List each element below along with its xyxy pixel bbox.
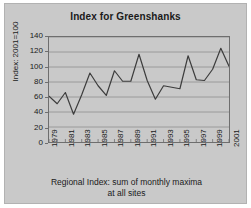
y-tick-label: 140 bbox=[17, 32, 43, 40]
chart-container: Index for Greenshanks Index: 2001=100 02… bbox=[4, 3, 247, 204]
y-tick-label: 80 bbox=[17, 78, 43, 86]
chart-title: Index for Greenshanks bbox=[5, 11, 246, 22]
y-tick-label: 40 bbox=[17, 108, 43, 116]
x-axis-caption-line2: at all sites bbox=[17, 188, 236, 199]
y-tick-label: 120 bbox=[17, 47, 43, 55]
plot-area bbox=[48, 36, 230, 143]
y-tick-mark bbox=[45, 143, 48, 144]
x-axis-caption: Regional Index: sum of monthly maxima at… bbox=[17, 177, 236, 199]
line-chart-svg bbox=[49, 37, 229, 142]
y-tick-label: 0 bbox=[17, 139, 43, 147]
y-tick-label: 20 bbox=[17, 124, 43, 132]
y-tick-label: 60 bbox=[17, 93, 43, 101]
x-tick-marks bbox=[49, 139, 229, 142]
x-axis-caption-line1: Regional Index: sum of monthly maxima bbox=[17, 177, 236, 188]
x-tick-label: 2001 bbox=[233, 129, 241, 147]
y-tick-label: 100 bbox=[17, 63, 43, 71]
data-series-line bbox=[49, 48, 229, 114]
gridlines bbox=[49, 37, 229, 127]
